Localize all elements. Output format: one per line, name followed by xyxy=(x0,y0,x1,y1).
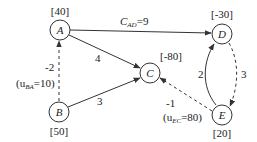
supply-c: [-80] xyxy=(160,50,182,62)
edge-label-a-d: CAD=9 xyxy=(120,15,149,29)
edge-label-d-e: 3 xyxy=(241,68,247,80)
edge-label-e-d: 2 xyxy=(198,68,204,80)
edge-label-b-a: -2 xyxy=(45,61,54,73)
supply-a: [40] xyxy=(51,5,69,17)
edge-e-d xyxy=(205,44,216,105)
supply-b: [50] xyxy=(50,125,68,137)
svg-text:E: E xyxy=(218,109,226,121)
supply-e: [20] xyxy=(213,127,231,139)
svg-text:A: A xyxy=(56,24,64,36)
svg-text:D: D xyxy=(217,28,226,40)
edge-label-e-c: -1 xyxy=(166,97,175,109)
capacity-label-b-a: (uBA=10) xyxy=(16,77,55,91)
supply-d: [-30] xyxy=(211,8,233,20)
edge-label-a-c: 4 xyxy=(95,52,101,64)
edge-a-c xyxy=(69,35,140,68)
network-diagram: A [40] B [50] C [-80] D [-30] E [20] CAD… xyxy=(0,0,257,142)
edge-d-e xyxy=(229,43,237,106)
node-a: A [40] xyxy=(50,5,70,40)
edge-label-b-c: 3 xyxy=(97,95,103,107)
svg-text:C: C xyxy=(146,67,154,79)
node-d: D [-30] xyxy=(211,8,233,44)
capacity-label-e-c: (uEC=80) xyxy=(163,111,202,125)
edge-a-d xyxy=(70,30,211,33)
node-e: E [20] xyxy=(212,105,232,139)
node-b: B [50] xyxy=(49,102,69,137)
edge-b-c xyxy=(68,78,140,107)
svg-text:B: B xyxy=(56,106,63,118)
